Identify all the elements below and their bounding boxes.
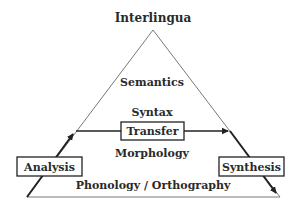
- analysis-box: Analysis: [17, 157, 82, 176]
- semantics-label: Semantics: [120, 76, 184, 89]
- morphology-label: Morphology: [115, 147, 190, 160]
- analysis-label: Analysis: [23, 161, 75, 174]
- phonology-orthography-label: Phonology / Orthography: [76, 179, 231, 192]
- transfer-label: Transfer: [126, 125, 178, 138]
- synthesis-box: Synthesis: [219, 157, 284, 176]
- transfer-box: Transfer: [121, 122, 184, 140]
- synthesis-label: Synthesis: [222, 161, 281, 174]
- syntax-label: Syntax: [131, 106, 173, 119]
- interlingua-label: Interlingua: [115, 11, 192, 25]
- vauquois-triangle-diagram: Interlingua Semantics Syntax Morphology …: [0, 0, 304, 210]
